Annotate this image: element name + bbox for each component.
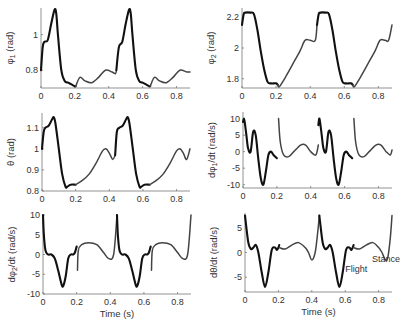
series-stance <box>77 215 117 270</box>
x-tick-label: 0.8 <box>170 91 183 101</box>
y-tick-label: 5 <box>235 130 240 140</box>
series-stance <box>279 215 319 259</box>
annotation-flight: Flight <box>345 264 368 274</box>
x-tick-label: 0.4 <box>104 297 117 307</box>
x-tick-label: 0.2 <box>272 295 285 305</box>
x-tick-label: 0.4 <box>306 295 319 305</box>
series-flight <box>245 215 279 287</box>
y-axis-label: θ (rad) <box>5 138 16 166</box>
series-stance <box>279 119 319 157</box>
y-tick-label: 5 <box>237 223 242 233</box>
y-axis-label: dθ/dt (rad/s) <box>208 227 219 278</box>
x-tick-label: 0 <box>240 191 245 201</box>
x-tick-label: 0.8 <box>372 295 385 305</box>
series-stance <box>150 149 190 185</box>
y-tick-label: 0.8 <box>25 65 38 75</box>
y-tick-label: 0 <box>237 248 242 258</box>
series-flight <box>43 215 77 287</box>
panel-phi2: 00.20.40.60.81.822.2φ2 (rad) <box>205 8 392 101</box>
y-tick-label: 10 <box>30 210 40 220</box>
x-tick-label: 0.8 <box>372 191 385 201</box>
panel-dphi2: 00.20.40.60.8-10-50510dφ2/dt (rad/s)Time… <box>6 210 191 319</box>
x-tick-label: 0 <box>242 295 247 305</box>
y-tick-label: 1.1 <box>26 123 39 133</box>
series-flight <box>42 117 76 188</box>
annotation-stance: Stance <box>372 254 400 264</box>
y-tick-label: 0.8 <box>26 186 39 196</box>
y-tick-label: 2 <box>234 43 239 53</box>
series-stance <box>278 25 317 87</box>
x-tick-label: 0.4 <box>102 91 115 101</box>
series-flight <box>318 118 352 184</box>
y-axis-label: dφ2/dt (rad/s) <box>6 226 18 282</box>
y-tick-label: 1.8 <box>226 74 239 84</box>
series-flight <box>242 12 278 84</box>
series-stance <box>354 119 392 157</box>
panel-theta: 00.20.40.60.80.80.911.1θ (rad) <box>5 113 190 204</box>
series-flight <box>317 12 353 84</box>
x-tick-label: 0.2 <box>271 191 284 201</box>
y-tick-label: 0 <box>235 147 240 157</box>
x-tick-label: 0.8 <box>372 91 385 101</box>
panel-dphi1: 00.20.40.60.8-10-50510dφ1/dt (rad/s) <box>206 112 392 201</box>
x-tick-label: 0.6 <box>136 91 149 101</box>
y-tick-label: 0 <box>35 250 40 260</box>
x-tick-label: 0.6 <box>138 297 151 307</box>
series-flight <box>116 9 150 86</box>
y-tick-label: 2.2 <box>226 12 239 22</box>
series-stance <box>353 25 392 87</box>
x-tick-label: 0.4 <box>103 194 116 204</box>
series-stance <box>150 70 190 86</box>
series-stance <box>76 149 116 185</box>
figure-canvas: 00.20.40.60.80.81φ1 (rad) 00.20.40.60.81… <box>0 0 404 323</box>
x-tick-label: 0 <box>40 297 45 307</box>
y-tick-label: -5 <box>234 272 242 282</box>
y-tick-label: -10 <box>27 289 40 299</box>
y-tick-label: 1 <box>34 144 39 154</box>
x-tick-label: 0.4 <box>304 191 317 201</box>
x-tick-label: 0.8 <box>170 194 183 204</box>
series-stance <box>76 70 117 86</box>
series-flight <box>115 117 149 188</box>
series-flight <box>319 215 353 287</box>
x-tick-label: 0.4 <box>304 91 317 101</box>
series-stance <box>151 215 191 270</box>
y-tick-label: 1 <box>33 30 38 40</box>
x-tick-label: 0.2 <box>270 91 283 101</box>
y-tick-label: 5 <box>35 230 40 240</box>
x-tick-label: 0.6 <box>338 91 351 101</box>
y-tick-label: -5 <box>32 269 40 279</box>
x-tick-label: 0.6 <box>339 295 352 305</box>
x-tick-label: 0.8 <box>171 297 184 307</box>
y-tick-label: 10 <box>230 114 240 124</box>
x-tick-label: 0 <box>39 194 44 204</box>
x-tick-label: 0 <box>239 91 244 101</box>
x-tick-label: 0.6 <box>338 191 351 201</box>
x-tick-label: 0 <box>38 91 43 101</box>
y-tick-label: -5 <box>232 163 240 173</box>
x-axis-label: Time (s) <box>301 306 335 317</box>
x-tick-label: 0.2 <box>69 194 82 204</box>
series-flight <box>41 9 76 86</box>
y-tick-label: 0.9 <box>26 165 39 175</box>
panel-phi1: 00.20.40.60.80.81φ1 (rad) <box>4 8 190 101</box>
series-flight <box>243 119 277 185</box>
y-axis-label: φ2 (rad) <box>205 32 217 65</box>
x-tick-label: 0.2 <box>69 91 82 101</box>
x-tick-label: 0.2 <box>70 297 83 307</box>
y-axis-label: dφ1/dt (rad/s) <box>206 122 218 178</box>
x-tick-label: 0.6 <box>137 194 150 204</box>
series-flight <box>117 215 151 287</box>
x-axis-label: Time (s) <box>100 308 134 319</box>
y-axis-label: φ1 (rad) <box>4 32 16 65</box>
y-tick-label: -10 <box>227 180 240 190</box>
panel-dtheta: 00.20.40.60.8-505dθ/dt (rad/s)Time (s)Fl… <box>208 213 400 317</box>
